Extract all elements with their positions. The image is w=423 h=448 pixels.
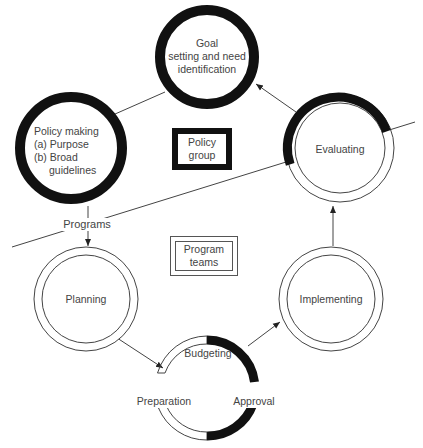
planning-label: Planning [46, 293, 126, 306]
policy-making-label: Policy making (a) Purpose (b) Broad guid… [34, 125, 99, 177]
approval-label: Approval [228, 395, 280, 408]
goal-label: Goal setting and need identification [157, 37, 257, 76]
policy-broad: (b) Broad [34, 151, 99, 164]
preparation-label: Preparation [134, 395, 194, 408]
policy-making-title: Policy making [34, 125, 99, 138]
policy-purpose: (a) Purpose [34, 138, 99, 151]
programs-edge-label: Programs [56, 218, 118, 231]
evaluating-label: Evaluating [300, 143, 380, 156]
budgeting-label: Budgeting [168, 347, 248, 360]
edge-budgeting-to-implementing [248, 322, 280, 346]
program-teams-box: Program teams [170, 236, 238, 276]
policy-guidelines: guidelines [34, 164, 99, 177]
edge-evaluating-to-goal [256, 84, 296, 112]
policy-group-box: Policy group [172, 128, 232, 170]
implementing-label: Implementing [291, 293, 371, 306]
